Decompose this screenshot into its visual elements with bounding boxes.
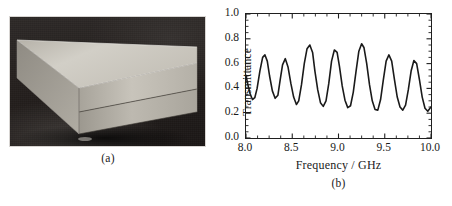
figure-panel-b: Transmittance Frequency / GHz 0.00.20.40…: [216, 0, 452, 206]
panel-a-caption: (a): [0, 152, 216, 164]
transmittance-curve: [246, 14, 431, 138]
wedge-block-illustration: [9, 16, 206, 147]
x-tick-label: 8.5: [271, 142, 311, 154]
x-tick-label: 9.0: [318, 142, 358, 154]
chart-plot-area: [245, 13, 432, 139]
y-tick-label: 1.0: [199, 7, 239, 19]
y-axis-label: Transmittance: [241, 17, 253, 147]
panel-b-caption: (b): [245, 177, 432, 189]
y-tick-label: 0.2: [199, 106, 239, 118]
sample-photograph: [9, 16, 206, 147]
y-tick-label: 0.6: [199, 57, 239, 69]
transmittance-line: [246, 44, 431, 112]
y-tick-label: 0.8: [199, 32, 239, 44]
axis-tick-marks: [246, 14, 431, 138]
x-tick-label: 8.0: [225, 142, 265, 154]
x-tick-label: 9.5: [364, 142, 404, 154]
x-tick-label: 10.0: [410, 142, 450, 154]
floor-highlight-speck: [78, 137, 92, 141]
y-tick-label: 0.4: [199, 82, 239, 94]
x-axis-label: Frequency / GHz: [245, 158, 432, 173]
figure-panel-a: (a): [0, 0, 216, 206]
